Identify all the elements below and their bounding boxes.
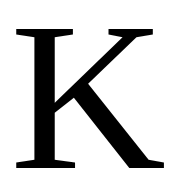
letter-k-svg: K — [0, 0, 175, 183]
letter-k: K — [10, 0, 166, 183]
letter-k-graphic: K — [0, 0, 175, 183]
